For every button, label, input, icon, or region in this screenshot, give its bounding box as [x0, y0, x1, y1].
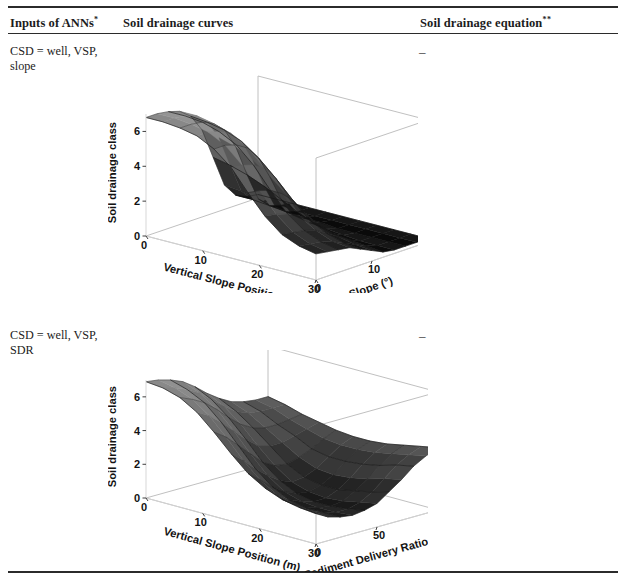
- svg-text:0: 0: [141, 239, 147, 251]
- svg-text:2: 2: [134, 195, 140, 207]
- svg-text:0: 0: [315, 546, 321, 558]
- svg-text:10: 10: [195, 254, 207, 266]
- svg-text:4: 4: [134, 425, 141, 437]
- svg-text:Soil drainage class: Soil drainage class: [108, 386, 118, 487]
- table-row-2-inputs-label: CSD = well, VSP, SDR: [10, 328, 120, 358]
- svg-text:20: 20: [251, 268, 263, 280]
- column-header-inputs-footnote: *: [94, 15, 99, 24]
- svg-text:20: 20: [251, 532, 263, 544]
- column-header-curves: Soil drainage curves: [123, 15, 233, 31]
- table-row-1-inputs-label: CSD = well, VSP, slope: [10, 44, 120, 74]
- svg-text:0: 0: [141, 501, 147, 513]
- surface-plot-slope-canvas: 0246Soil drainage class0102030Vertical S…: [108, 58, 418, 293]
- svg-text:6: 6: [134, 391, 140, 403]
- column-header-equation-footnote: **: [542, 15, 551, 24]
- svg-text:0: 0: [134, 492, 140, 504]
- table-top-rule: [8, 6, 618, 8]
- column-header-equation-text: Soil drainage equation: [420, 16, 542, 30]
- svg-text:6: 6: [134, 125, 140, 137]
- column-header-inputs: Inputs of ANNs*: [10, 15, 99, 31]
- svg-text:Soil drainage class: Soil drainage class: [108, 122, 118, 223]
- column-header-inputs-text: Inputs of ANNs: [10, 16, 94, 30]
- svg-text:Slope (°): Slope (°): [347, 274, 394, 293]
- svg-text:Vertical Slope Position (m): Vertical Slope Position (m): [162, 261, 302, 293]
- svg-text:Sediment Delivery Ratio (%): Sediment Delivery Ratio (%): [303, 529, 428, 572]
- svg-text:50: 50: [373, 529, 385, 541]
- column-header-curves-text: Soil drainage curves: [123, 16, 233, 30]
- svg-text:10: 10: [368, 263, 380, 275]
- surface-plot-sdr-canvas: 0246Soil drainage class0102030Vertical S…: [108, 350, 428, 572]
- surface-plot-sdr: 0246Soil drainage class0102030Vertical S…: [108, 350, 428, 572]
- svg-text:10: 10: [195, 516, 207, 528]
- table-row-1-equation-value: –: [419, 45, 426, 58]
- svg-text:0: 0: [134, 230, 140, 242]
- table-row-2-equation-value: –: [419, 329, 426, 342]
- table-figure-page: Inputs of ANNs* Soil drainage curves Soi…: [0, 0, 626, 584]
- table-header-rule: [8, 33, 618, 34]
- column-header-equation: Soil drainage equation**: [420, 15, 551, 31]
- surface-plot-slope: 0246Soil drainage class0102030Vertical S…: [108, 58, 418, 293]
- svg-text:0: 0: [315, 282, 321, 293]
- svg-text:2: 2: [134, 458, 140, 470]
- svg-text:4: 4: [134, 160, 141, 172]
- svg-text:Vertical Slope Position (m): Vertical Slope Position (m): [162, 525, 302, 572]
